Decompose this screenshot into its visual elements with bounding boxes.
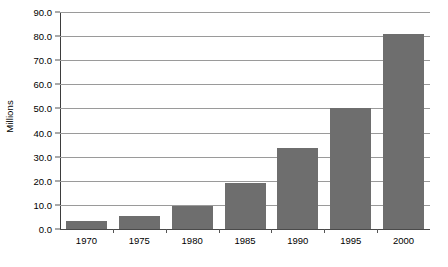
y-axis-tick-label: 90.0 [34, 7, 53, 18]
x-axis-tick-mark [166, 229, 167, 233]
bar [277, 148, 318, 229]
y-axis-tick-label: 40.0 [34, 127, 53, 138]
bar-chart: Millions 0.010.020.030.040.050.060.070.0… [0, 0, 448, 267]
y-axis-tick-label: 60.0 [34, 79, 53, 90]
bar [225, 183, 266, 229]
x-axis-tick-marks [60, 229, 430, 234]
bars-layer [60, 12, 430, 229]
bar [383, 34, 424, 229]
x-axis-tick-mark [219, 229, 220, 233]
y-axis-tick-label: 70.0 [34, 55, 53, 66]
x-axis-tick-label: 1975 [129, 235, 150, 246]
y-axis-tick-label: 10.0 [34, 199, 53, 210]
x-axis-tick-mark [377, 229, 378, 233]
x-axis-tick-label: 2000 [393, 235, 414, 246]
x-axis-tick-mark [113, 229, 114, 233]
y-axis-tick-label: 0.0 [39, 224, 52, 235]
y-axis-tick-labels: 0.010.020.030.040.050.060.070.080.090.0 [14, 12, 56, 229]
y-axis-tick-label: 30.0 [34, 151, 53, 162]
y-axis-tick-label: 80.0 [34, 31, 53, 42]
x-axis-tick-label: 1980 [182, 235, 203, 246]
x-axis-tick-mark [324, 229, 325, 233]
x-axis-tick-label: 1985 [234, 235, 255, 246]
plot-area [60, 12, 430, 229]
y-axis-tick-label: 20.0 [34, 175, 53, 186]
x-axis-tick-label: 1970 [76, 235, 97, 246]
x-axis-tick-label: 1995 [340, 235, 361, 246]
y-axis-title-label: Millions [4, 100, 15, 132]
bar [172, 206, 213, 229]
x-axis-tick-label: 1990 [287, 235, 308, 246]
x-axis-tick-mark [271, 229, 272, 233]
x-axis-tick-labels: 1970197519801985199019952000 [60, 235, 430, 251]
y-axis-tick-label: 50.0 [34, 103, 53, 114]
bar [330, 108, 371, 229]
bar [66, 221, 107, 229]
bar [119, 216, 160, 229]
